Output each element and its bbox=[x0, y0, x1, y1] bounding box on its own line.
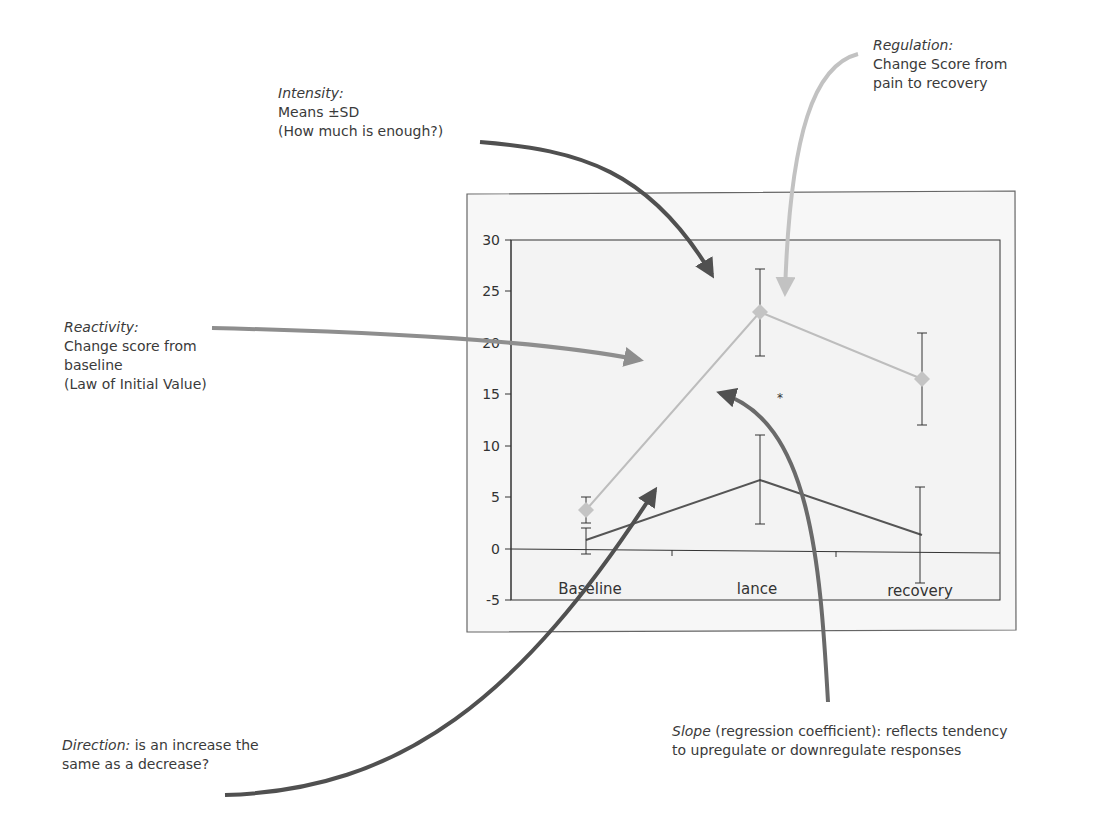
plot-area bbox=[511, 240, 1000, 600]
significance-asterisk: * bbox=[777, 391, 783, 405]
x-label-recovery: recovery bbox=[887, 582, 953, 600]
chart-canvas: 30 25 20 15 10 5 0 -5 Baseline lance rec… bbox=[0, 0, 1100, 825]
y-tick-label-5: 5 bbox=[491, 489, 500, 505]
x-label-lance: lance bbox=[737, 580, 777, 598]
y-tick-label-25: 25 bbox=[482, 283, 500, 299]
y-tick-label-10: 10 bbox=[482, 438, 500, 454]
y-tick-label-neg5: -5 bbox=[486, 592, 500, 608]
y-tick-label-0: 0 bbox=[491, 541, 500, 557]
y-tick-label-15: 15 bbox=[482, 386, 500, 402]
y-tick-label-30: 30 bbox=[482, 232, 500, 248]
